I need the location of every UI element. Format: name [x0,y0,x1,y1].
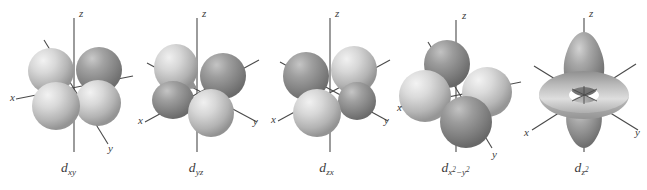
axis-label-z: z [201,7,207,19]
orbital-panel-dyz: x y z dyz [131,0,261,190]
orbital-lobe [440,96,492,148]
orbital-panel-dxy: x y z dxy [2,0,135,190]
orbital-diagram-dx2y2: x y z [388,0,523,160]
d-orbital-figure: x y z dxy [0,0,647,190]
axis-label-x: x [9,91,15,103]
orbital-diagram-dyz: x y z [131,0,261,160]
orbital-label-base: d [61,160,68,175]
orbital-panel-dzx: x y z dzx [260,0,393,190]
orbital-panel-dz2: x y z dz2 [516,0,647,190]
axis-label-z: z [78,7,84,19]
axis-label-z: z [461,9,467,21]
axis-label-x: x [270,113,276,125]
axis-label-y: y [252,115,258,127]
orbital-label-dxy: dxy [2,160,135,177]
orbital-diagram-dxy: x y z [2,0,135,160]
orbital-label-dz2: dz2 [516,160,647,177]
orbital-panel-dx2y2: x y z dx2−y2 [388,0,523,190]
sup-two-b: 2 [466,166,470,174]
axis-label-x: x [137,114,143,126]
orbital-lobe [32,82,80,130]
axis-label-x: x [396,101,402,113]
orbital-label-dzx: dzx [260,160,393,177]
orbital-lobe [293,89,341,137]
orbital-lobe [188,89,234,137]
axis-label-z: z [588,7,594,19]
orbital-label-dyz: dyz [131,160,261,177]
orbital-diagram-dz2: x y z [516,0,647,160]
orbital-label-subscript: zx [326,167,334,177]
orbital-diagram-dzx: x y z [260,0,393,160]
axis-label-x: x [523,126,529,138]
sup-two: 2 [585,166,589,174]
axis-label-y: y [107,142,113,154]
orbital-label-subscript: z2 [581,167,588,177]
axis-label-z: z [334,7,340,19]
orbital-label-base: d [189,160,196,175]
orbital-lobe [152,81,194,119]
orbital-label-subscript: yz [196,167,204,177]
axis-label-y: y [634,126,640,138]
orbital-lobe [75,80,121,126]
axis-label-y: y [491,148,497,160]
orbital-label-dx2y2: dx2−y2 [388,160,523,177]
orbital-label-subscript: xy [68,167,76,177]
sup-two-a: 2 [452,166,456,174]
orbital-label-subscript: x2−y2 [448,167,469,177]
orbital-lobe [338,82,376,120]
